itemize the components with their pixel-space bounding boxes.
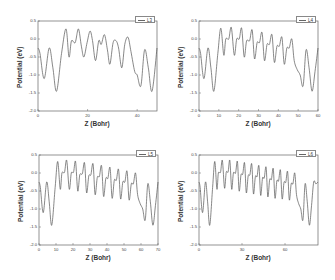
chart-panel-bottom-left: 0.50.0-0.5-1.0-1.5-2.0010203040506070Pot…	[0, 140, 167, 280]
y-axis-label: Potential (eV)	[177, 180, 184, 222]
y-tick-label: 0.0	[191, 36, 197, 41]
y-axis-label: Potential (eV)	[17, 180, 24, 222]
legend: L6	[296, 150, 316, 157]
legend: L4	[296, 16, 316, 23]
legend-line-swatch	[139, 154, 146, 155]
y-tick-label: -1.0	[30, 206, 38, 211]
y-tick-label: 0.0	[191, 170, 197, 175]
x-tick-label: 30	[88, 247, 93, 252]
y-tick-label: 0.5	[30, 18, 36, 23]
series-line-l3	[38, 29, 157, 92]
x-axis-label: Z (Bohr)	[85, 120, 110, 127]
x-tick-label: 40	[105, 247, 110, 252]
y-tick-label: -1.5	[30, 224, 38, 229]
chart-panel-top-left: 0.50.0-0.5-1.0-1.5-2.002040Potential (eV…	[0, 0, 167, 140]
x-tick-label: 0	[38, 247, 41, 252]
y-tick-label: -2.0	[29, 108, 37, 113]
chart-panel-bottom-right: 0.50.0-0.5-1.0-1.5-2.003060Potential (eV…	[168, 140, 335, 280]
x-tick-label: 20	[85, 113, 90, 118]
y-tick-label: -2.0	[190, 108, 198, 113]
x-tick-label: 60	[283, 247, 288, 252]
plot-frame	[199, 155, 318, 245]
legend-line-swatch	[299, 154, 306, 155]
legend-label: L3	[147, 18, 152, 23]
y-tick-label: -0.5	[190, 188, 198, 193]
y-tick-label: -1.5	[29, 90, 37, 95]
x-axis-label: Z (Bohr)	[246, 120, 271, 127]
x-tick-label: 0	[198, 247, 201, 252]
y-tick-label: 0.5	[191, 18, 197, 23]
series-line-l5	[39, 160, 158, 225]
plot-area: 0.50.0-0.5-1.0-1.5-2.0010203040506070	[0, 140, 167, 280]
x-tick-label: 20	[71, 247, 76, 252]
x-tick-label: 0	[37, 113, 40, 118]
legend: L5	[136, 150, 156, 157]
x-tick-label: 10	[216, 113, 221, 118]
y-axis-label: Potential (eV)	[16, 46, 23, 88]
x-tick-label: 40	[276, 113, 281, 118]
series-line-l4	[199, 27, 318, 91]
x-tick-label: 20	[236, 113, 241, 118]
y-tick-label: 0.0	[30, 36, 36, 41]
x-tick-label: 50	[122, 247, 127, 252]
plot-frame	[38, 21, 157, 111]
y-tick-label: -2.0	[30, 242, 38, 247]
x-axis-label: Z (Bohr)	[246, 254, 271, 261]
series-line-l6	[199, 160, 318, 225]
x-tick-label: 10	[54, 247, 59, 252]
legend-line-swatch	[138, 20, 145, 21]
x-tick-label: 0	[198, 113, 201, 118]
y-tick-label: -0.5	[190, 54, 198, 59]
chart-panel-top-right: 0.50.0-0.5-1.0-1.5-2.00102030405060Poten…	[168, 0, 335, 140]
y-tick-label: -2.0	[190, 242, 198, 247]
x-tick-label: 40	[135, 113, 140, 118]
y-tick-label: -1.0	[29, 72, 37, 77]
y-tick-label: -0.5	[29, 54, 37, 59]
x-tick-label: 70	[156, 247, 161, 252]
x-tick-label: 30	[256, 113, 261, 118]
y-tick-label: -1.5	[190, 90, 198, 95]
y-tick-label: -0.5	[30, 188, 38, 193]
legend-line-swatch	[299, 20, 306, 21]
x-tick-label: 50	[296, 113, 301, 118]
legend-label: L6	[308, 152, 313, 157]
y-tick-label: -1.0	[190, 72, 198, 77]
y-tick-label: -1.5	[190, 224, 198, 229]
legend: L3	[135, 16, 155, 23]
legend-label: L4	[308, 18, 313, 23]
y-tick-label: 0.0	[31, 170, 37, 175]
y-tick-label: -1.0	[190, 206, 198, 211]
y-tick-label: 0.5	[191, 152, 197, 157]
y-axis-label: Potential (eV)	[177, 46, 184, 88]
x-axis-label: Z (Bohr)	[86, 254, 111, 261]
x-tick-label: 60	[139, 247, 144, 252]
x-tick-label: 30	[240, 247, 245, 252]
y-tick-label: 0.5	[31, 152, 37, 157]
legend-label: L5	[148, 152, 153, 157]
x-tick-label: 60	[316, 113, 321, 118]
